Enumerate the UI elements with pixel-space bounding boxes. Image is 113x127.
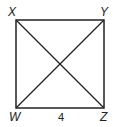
side-length-label: 4 — [58, 111, 64, 123]
vertex-label-x: X — [7, 5, 17, 19]
vertex-label-w: W — [9, 110, 22, 124]
vertex-label-z: Z — [99, 110, 108, 124]
square-diagram: X Y W Z 4 — [0, 0, 113, 127]
vertex-label-y: Y — [100, 5, 109, 19]
